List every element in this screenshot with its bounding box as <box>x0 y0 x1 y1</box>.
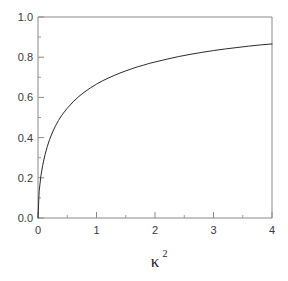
y-tick-label: 1.0 <box>18 11 33 23</box>
x-tick-label: 3 <box>210 224 216 236</box>
chart-plot: 0 1 2 3 4 0.0 0.2 0.4 0.6 0.8 1.0 κ 2 <box>0 0 288 281</box>
x-axis-label-kappa: κ <box>151 252 160 271</box>
x-tick-label: 2 <box>152 224 158 236</box>
y-tick-label: 0.8 <box>18 51 33 63</box>
y-tick-label: 0.0 <box>18 212 33 224</box>
chart-figure: 0 1 2 3 4 0.0 0.2 0.4 0.6 0.8 1.0 κ 2 <box>0 0 288 281</box>
x-tick-label: 4 <box>269 224 275 236</box>
x-tick-label: 1 <box>93 224 99 236</box>
x-tick-label: 0 <box>35 224 41 236</box>
figure-background <box>0 0 288 281</box>
y-tick-label: 0.4 <box>18 132 33 144</box>
y-tick-label: 0.2 <box>18 172 33 184</box>
y-tick-label: 0.6 <box>18 91 33 103</box>
x-axis-label-exponent: 2 <box>163 248 168 259</box>
